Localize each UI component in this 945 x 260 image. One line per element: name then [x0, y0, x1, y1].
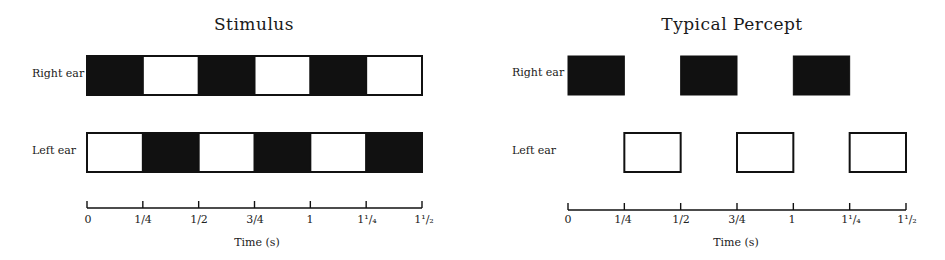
- stimulus-tick-5: 1¹/₄: [357, 213, 377, 226]
- percept-panel: Typical Percept Right ear Left ear 0 1/4…: [470, 0, 945, 260]
- stimulus-tick-6: 1¹/₂: [414, 213, 434, 226]
- right-ear-black-segment: [87, 56, 143, 95]
- left-ear-black-segment: [366, 133, 422, 172]
- percept-tick-0: 0: [565, 213, 572, 226]
- right-ear-black-segment: [199, 56, 255, 95]
- right-ear-black-segment: [568, 56, 624, 95]
- left-ear-black-segment: [143, 133, 199, 172]
- right-ear-white-segment: [255, 56, 311, 95]
- stimulus-diagram: [0, 0, 470, 260]
- percept-x-axis-title: Time (s): [713, 236, 759, 249]
- percept-right-ear-label: Right ear: [512, 66, 564, 79]
- percept-left-ear-label: Left ear: [512, 144, 556, 157]
- right-ear-black-segment: [793, 56, 849, 95]
- percept-title: Typical Percept: [661, 14, 802, 34]
- percept-diagram: [470, 0, 945, 260]
- left-ear-white-segment: [87, 133, 143, 172]
- left-ear-white-segment: [850, 133, 906, 172]
- percept-tick-6: 1¹/₂: [897, 213, 917, 226]
- stimulus-tick-2: 1/2: [190, 213, 208, 226]
- percept-tick-1: 1/4: [614, 213, 632, 226]
- percept-tick-3: 3/4: [728, 213, 746, 226]
- left-ear-white-segment: [624, 133, 680, 172]
- right-ear-white-segment: [366, 56, 422, 95]
- percept-tick-2: 1/2: [672, 213, 690, 226]
- right-ear-black-segment: [310, 56, 366, 95]
- stimulus-tick-0: 0: [85, 213, 92, 226]
- right-ear-black-segment: [681, 56, 737, 95]
- stimulus-tick-1: 1/4: [134, 213, 152, 226]
- left-ear-white-segment: [737, 133, 793, 172]
- stimulus-panel: Stimulus Right ear Left ear 0 1/4 1/2 3/…: [0, 0, 470, 260]
- percept-tick-4: 1: [789, 213, 796, 226]
- stimulus-tick-4: 1: [307, 213, 314, 226]
- stimulus-left-ear-label: Left ear: [32, 144, 76, 157]
- left-ear-black-segment: [255, 133, 311, 172]
- left-ear-white-segment: [199, 133, 255, 172]
- percept-tick-5: 1¹/₄: [841, 213, 861, 226]
- stimulus-title: Stimulus: [214, 14, 294, 34]
- stimulus-x-axis-title: Time (s): [234, 236, 280, 249]
- left-ear-white-segment: [310, 133, 366, 172]
- stimulus-right-ear-label: Right ear: [32, 67, 84, 80]
- right-ear-white-segment: [143, 56, 199, 95]
- stimulus-tick-3: 3/4: [246, 213, 264, 226]
